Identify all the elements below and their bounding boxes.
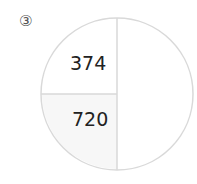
part-bottom: 720 (72, 108, 108, 130)
lower-left-quadrant (42, 94, 117, 169)
part-whole-circle (0, 0, 197, 184)
part-top: 374 (70, 52, 106, 74)
